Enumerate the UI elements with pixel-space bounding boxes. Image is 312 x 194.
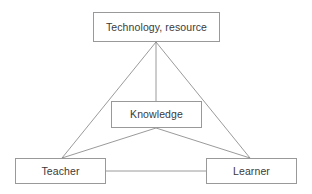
node-knowledge-label: Knowledge <box>130 109 183 120</box>
edge-knowledge-learner <box>156 128 250 158</box>
node-technology-resource-label: Technology, resource <box>106 22 207 33</box>
edge-knowledge-teacher <box>62 128 156 158</box>
diagram-canvas: Technology, resource Knowledge Teacher L… <box>0 0 312 194</box>
node-learner[interactable]: Learner <box>206 158 297 184</box>
node-knowledge[interactable]: Knowledge <box>111 101 202 128</box>
edge-technology-teacher <box>62 42 156 158</box>
node-teacher[interactable]: Teacher <box>15 158 106 184</box>
edge-technology-learner <box>156 42 250 158</box>
node-teacher-label: Teacher <box>41 166 79 177</box>
node-learner-label: Learner <box>233 166 270 177</box>
node-technology-resource[interactable]: Technology, resource <box>93 12 220 42</box>
